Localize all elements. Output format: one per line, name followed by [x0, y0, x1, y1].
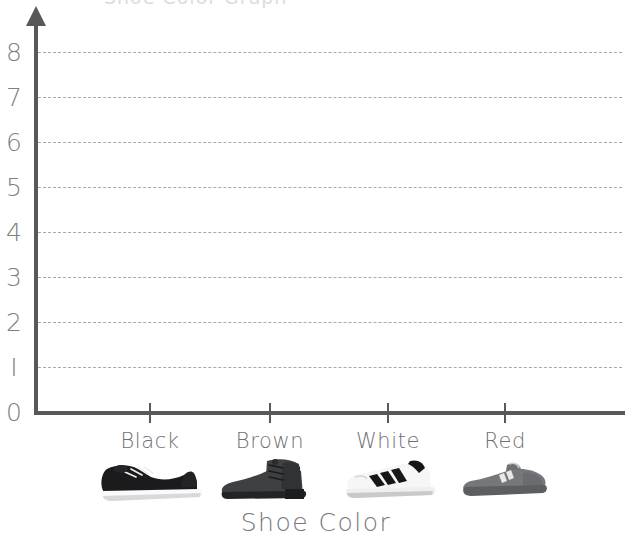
white-sneaker-icon: [331, 455, 449, 507]
y-tick-label-5: 5: [0, 175, 28, 200]
y-tick-label-6: 6: [0, 130, 28, 155]
x-axis-title: Shoe Color: [0, 508, 632, 537]
y-tick-label-7: 7: [0, 85, 28, 110]
x-axis-line: [34, 411, 625, 415]
gridline-1: [38, 367, 622, 368]
gridline-5: [38, 187, 622, 188]
bar-chart-worksheet: Shoe Color Graph 8 7 6 5 4 3 2 I 0 Black…: [0, 0, 632, 542]
gridline-7: [38, 97, 622, 98]
black-sneaker-icon: [91, 455, 209, 507]
x-tick-white: [387, 403, 389, 423]
gridline-6: [38, 142, 622, 143]
y-tick-label-2: 2: [0, 310, 28, 335]
gridline-3: [38, 277, 622, 278]
x-tick-black: [149, 403, 151, 423]
y-tick-label-8: 8: [0, 40, 28, 65]
y-tick-label-4: 4: [0, 220, 28, 245]
x-tick-red: [504, 403, 506, 423]
red-sneaker-icon: [449, 455, 567, 507]
gridline-8: [38, 52, 622, 53]
gridline-4: [38, 232, 622, 233]
y-axis-line: [34, 22, 38, 415]
y-tick-label-0: 0: [0, 400, 28, 425]
gridline-2: [38, 322, 622, 323]
brown-boot-icon: [211, 455, 329, 507]
y-tick-label-1: I: [0, 355, 28, 380]
x-category-label-red: Red: [430, 429, 580, 453]
x-tick-brown: [269, 403, 271, 423]
y-tick-label-3: 3: [0, 265, 28, 290]
